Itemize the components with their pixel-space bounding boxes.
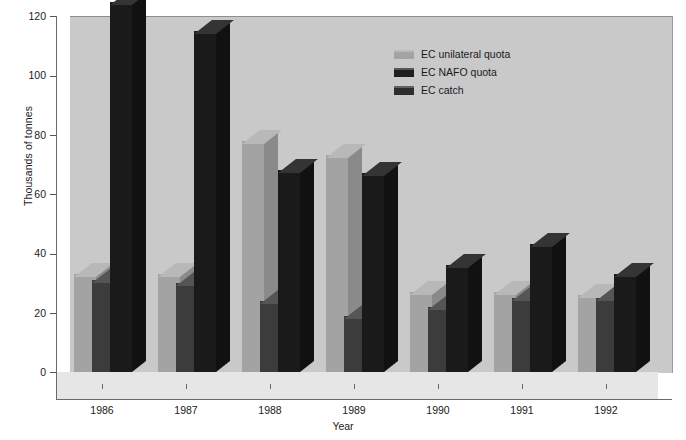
x-axis-tick-label: 1991 <box>482 404 562 416</box>
bar-side-face <box>552 233 566 372</box>
legend-label: EC unilateral quota <box>421 48 510 60</box>
x-axis-title: Year <box>0 420 686 432</box>
y-axis: 020406080100120 <box>0 0 56 400</box>
y-axis-tick-label: 60 <box>34 188 46 200</box>
x-axis-tick-label: 1989 <box>314 404 394 416</box>
legend-label: EC NAFO quota <box>421 66 497 78</box>
y-axis-tick: 0 <box>10 366 56 378</box>
bar-group <box>242 16 312 372</box>
bar-1991-series2 <box>530 244 552 372</box>
bar-front-face <box>362 173 384 372</box>
y-axis-tick-label: 80 <box>34 129 46 141</box>
bar-1990-series2 <box>446 265 468 372</box>
bar-front-face <box>110 2 132 372</box>
bar-side-face <box>636 263 650 372</box>
x-axis-tick-label: 1987 <box>146 404 226 416</box>
legend-swatch <box>394 86 414 95</box>
plot-area <box>56 16 672 400</box>
legend-item[interactable]: EC catch <box>394 82 510 98</box>
bar-group <box>74 16 144 372</box>
bar-1989-series2 <box>362 173 384 372</box>
y-axis-tick: 40 <box>10 247 56 259</box>
x-axis-tick-label: 1992 <box>566 404 646 416</box>
x-axis-tick-mark <box>438 384 439 389</box>
x-axis-tick-mark <box>270 384 271 389</box>
x-axis-tick-mark <box>102 384 103 389</box>
legend-swatch-highlight <box>394 68 414 70</box>
bar-front-face <box>278 170 300 372</box>
legend-swatch-highlight <box>394 86 414 88</box>
bar-1986-series2 <box>110 2 132 372</box>
y-axis-tick-label: 0 <box>40 366 46 378</box>
legend-item[interactable]: EC unilateral quota <box>394 46 510 62</box>
x-axis-tick-mark <box>522 384 523 389</box>
y-axis-tick-label: 20 <box>34 307 46 319</box>
bar-side-face <box>300 159 314 372</box>
bar-1992-series2 <box>614 274 636 372</box>
bar-1987-series2 <box>194 31 216 372</box>
y-axis-tick: 120 <box>10 10 56 22</box>
x-axis-tick-label: 1990 <box>398 404 478 416</box>
legend-swatch <box>394 50 414 59</box>
x-axis-tick-mark <box>186 384 187 389</box>
legend-label: EC catch <box>421 84 464 96</box>
legend-swatch-highlight <box>394 50 414 52</box>
bar-group <box>158 16 228 372</box>
y-axis-tick: 20 <box>10 307 56 319</box>
bar-side-face <box>132 0 146 372</box>
bar-side-face <box>216 20 230 372</box>
legend-item[interactable]: EC NAFO quota <box>394 64 510 80</box>
y-axis-tick-label: 100 <box>28 69 46 81</box>
bar-1988-series2 <box>278 170 300 372</box>
x-axis-tick-label: 1986 <box>62 404 142 416</box>
y-axis-tick-label: 120 <box>28 10 46 22</box>
y-axis-tick: 80 <box>10 129 56 141</box>
bar-side-face <box>384 162 398 372</box>
bar-front-face <box>614 274 636 372</box>
y-axis-tick: 60 <box>10 188 56 200</box>
chart-figure: Thousands of tonnes 020406080100120 EC u… <box>0 0 686 440</box>
bar-group <box>326 16 396 372</box>
bar-front-face <box>446 265 468 372</box>
legend: EC unilateral quotaEC NAFO quotaEC catch <box>394 46 510 100</box>
y-axis-tick-label: 40 <box>34 247 46 259</box>
bar-side-face <box>468 254 482 372</box>
y-axis-tick: 100 <box>10 69 56 81</box>
bar-front-face <box>194 31 216 372</box>
bar-front-face <box>530 244 552 372</box>
bar-group <box>578 16 648 372</box>
legend-swatch <box>394 68 414 77</box>
x-axis-tick-mark <box>606 384 607 389</box>
bar-groups <box>56 16 672 400</box>
x-axis-tick-mark <box>354 384 355 389</box>
x-axis-tick-label: 1988 <box>230 404 310 416</box>
